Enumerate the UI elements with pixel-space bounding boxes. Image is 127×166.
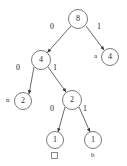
leaf-symbol-a: a xyxy=(94,53,97,60)
node-weight-label: 1 xyxy=(53,136,57,144)
node-weight-label: 1 xyxy=(91,136,95,144)
node-weight-label: 2 xyxy=(70,96,74,104)
node-weight-label: 8 xyxy=(76,15,80,23)
tree-node-internal-2[interactable]: 2 xyxy=(62,90,82,110)
tree-node-root[interactable]: 8 xyxy=(68,9,88,29)
leaf-symbol-n: n xyxy=(6,97,10,104)
node-weight-label: 2 xyxy=(21,97,25,105)
tree-node-internal-4[interactable]: 4 xyxy=(31,50,51,70)
node-weight-label: 4 xyxy=(39,56,43,64)
edge-label-n4L-0: 0 xyxy=(16,64,20,72)
edge-label-n2R-0: 0 xyxy=(50,105,54,113)
tree-node-leaf-space[interactable]: 1 xyxy=(46,131,64,149)
edge-label-root-0: 0 xyxy=(50,23,54,31)
leaf-symbol-b: b xyxy=(91,152,95,159)
edge-root-right xyxy=(86,26,104,50)
edge-n4L-left xyxy=(29,67,34,94)
tree-node-leaf-a[interactable]: 4 xyxy=(101,48,119,66)
edge-n2R-left xyxy=(58,107,65,132)
leaf-symbol-space-box xyxy=(51,152,58,159)
huffman-tree-diagram: 8 4 4 2 2 1 1 0 1 0 1 0 1 a n b xyxy=(0,0,127,166)
edge-label-n4L-1: 1 xyxy=(53,64,57,72)
edge-n4L-right xyxy=(48,67,66,92)
node-weight-label: 4 xyxy=(108,53,112,61)
tree-node-leaf-n[interactable]: 2 xyxy=(14,92,32,110)
tree-node-leaf-b[interactable]: 1 xyxy=(84,131,102,149)
edge-label-n2R-1: 1 xyxy=(83,105,87,113)
edge-label-root-1: 1 xyxy=(97,23,101,31)
